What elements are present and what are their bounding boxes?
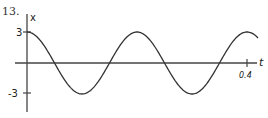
x-axis-label: t <box>259 56 264 69</box>
x-tick-label: 0.4 <box>239 71 252 80</box>
problem-number: 13. <box>2 5 20 18</box>
plot-area: x 3 -3 t 0.4 <box>0 0 268 118</box>
y-tick-label-neg: -3 <box>8 88 18 99</box>
y-axis-label: x <box>30 12 36 23</box>
sinusoid-graph: 13. x 3 -3 t 0.4 <box>0 0 268 118</box>
y-tick-label-pos: 3 <box>16 27 22 38</box>
